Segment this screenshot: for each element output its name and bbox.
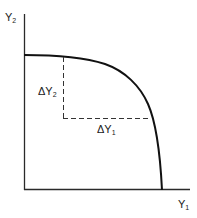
ppf-diagram: Y2 ΔY2 ΔY1 Y1 — [0, 0, 197, 218]
diagram-canvas — [0, 0, 197, 218]
x-axis-label-sub: 1 — [185, 204, 189, 211]
frontier-curve — [24, 55, 162, 190]
delta-y1-main: ΔY — [97, 123, 112, 135]
delta-y1-sub: 1 — [112, 129, 116, 136]
delta-y2-sub: 2 — [53, 91, 57, 98]
delta-y2-label: ΔY2 — [38, 86, 57, 98]
delta-y2-main: ΔY — [38, 85, 53, 97]
y-axis-label: Y2 — [5, 12, 16, 24]
delta-y1-label: ΔY1 — [97, 124, 116, 136]
x-axis-label: Y1 — [178, 199, 189, 211]
y-axis-label-sub: 2 — [12, 17, 16, 24]
